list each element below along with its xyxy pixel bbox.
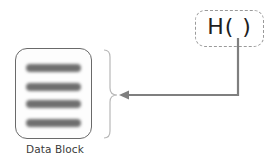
- connector-line: [128, 38, 238, 95]
- curly-brace-icon: [104, 50, 117, 138]
- diagram-canvas: Data Block H( ): [0, 0, 277, 162]
- connector-graphics: [0, 0, 277, 162]
- arrow-head-icon: [119, 91, 129, 100]
